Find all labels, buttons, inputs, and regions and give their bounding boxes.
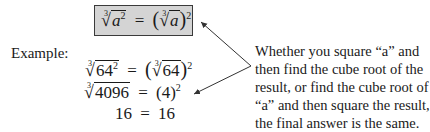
arrow-to-rule [201,22,251,66]
explanation-text: Whether you square “a” and then find the… [255,42,430,132]
arrow-to-example [194,66,251,94]
